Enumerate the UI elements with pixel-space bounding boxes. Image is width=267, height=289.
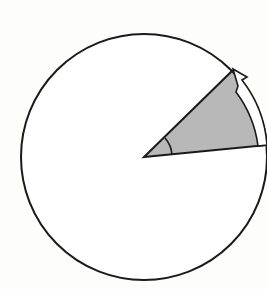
rotation-diagram: [0, 0, 267, 289]
